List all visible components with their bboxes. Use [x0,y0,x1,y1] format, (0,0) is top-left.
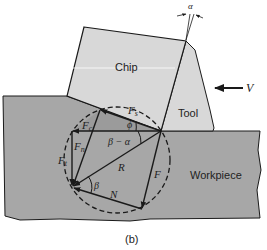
beta-minus-alpha-label: β − α [107,136,131,147]
figure-caption: (b) [125,233,138,245]
rake-angle-tool-line [186,14,194,40]
rake-angle-left-tick [177,14,186,16]
tool-label: Tool [178,107,198,119]
rake-angle-right-tick [196,15,203,18]
friction-angle-label: β [93,180,99,191]
merchant-circle-diagram: Chip Tool Workpiece V α Fs Fc Fn Ft R F … [0,0,267,250]
normal-force-label: N [109,188,118,200]
friction-force-label: F [153,168,161,180]
shear-angle-label: ϕ [127,119,132,130]
chip-label: Chip [115,61,138,73]
rake-angle-reference-line [186,14,190,40]
workpiece-label: Workpiece [190,169,242,181]
resultant-force-label: R [117,161,125,173]
velocity-label: V [246,81,255,95]
rake-angle-label: α [188,1,193,11]
